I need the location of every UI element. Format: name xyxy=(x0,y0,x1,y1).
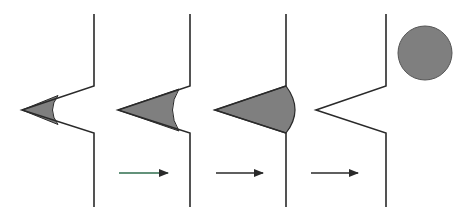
detached-droplet xyxy=(398,26,452,80)
diagram-stage xyxy=(0,0,472,223)
filled-wedge-concave xyxy=(118,89,179,131)
filled-wedge-convex xyxy=(215,86,295,133)
panel-1 xyxy=(22,14,94,207)
cavity-growth-diagram xyxy=(0,0,472,223)
panel-2 xyxy=(118,14,190,207)
panel-4 xyxy=(311,14,452,207)
panel-3 xyxy=(215,14,295,207)
empty-wall-notch xyxy=(316,14,386,207)
